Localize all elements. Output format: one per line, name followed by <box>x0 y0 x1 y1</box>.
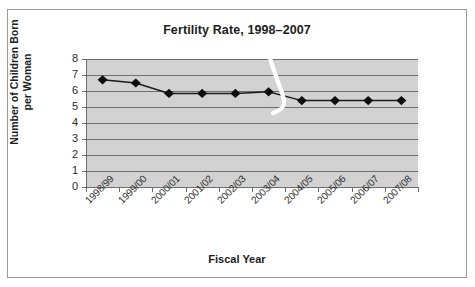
x-tick-mark <box>86 187 87 192</box>
y-axis-title-line-2: per Woman <box>21 54 33 111</box>
y-tick-label: 3 <box>54 132 78 144</box>
y-tick-label: 0 <box>54 180 78 192</box>
x-tick-mark <box>186 187 187 192</box>
x-tick-mark <box>152 187 153 192</box>
chart-page: Fertility Rate, 1998–2007 Number of Chil… <box>0 0 475 287</box>
y-tick-label: 1 <box>54 164 78 176</box>
data-point-marker <box>330 96 340 105</box>
y-tick-label: 4 <box>54 116 78 128</box>
data-point-marker <box>396 96 406 105</box>
data-point-marker <box>230 89 240 98</box>
y-axis-title-line-1: Number of Children Born <box>8 19 20 144</box>
x-tick-mark <box>252 187 253 192</box>
x-tick-mark <box>318 187 319 192</box>
data-point-marker <box>197 89 207 98</box>
x-tick-mark <box>385 187 386 192</box>
y-tick-label: 7 <box>54 68 78 80</box>
data-series-line <box>86 59 418 187</box>
x-tick-mark <box>219 187 220 192</box>
x-tick-mark <box>119 187 120 192</box>
data-point-marker <box>131 78 141 87</box>
chart-frame: Fertility Rate, 1998–2007 Number of Chil… <box>7 9 467 278</box>
data-point-marker <box>264 87 274 96</box>
data-point-marker <box>164 89 174 98</box>
y-tick-label: 6 <box>54 84 78 96</box>
plot-wrapper: 876543210 1998/991999/002000/012001/0220… <box>86 59 418 187</box>
x-tick-mark <box>352 187 353 192</box>
data-point-marker <box>98 75 108 84</box>
series-line <box>103 80 402 101</box>
chart-title: Fertility Rate, 1998–2007 <box>8 23 466 37</box>
x-tick-mark <box>285 187 286 192</box>
y-axis-title: Number of Children Born per Woman <box>8 7 48 157</box>
x-tick-mark <box>418 187 419 192</box>
data-point-marker <box>363 96 373 105</box>
y-tick-label: 8 <box>54 52 78 64</box>
y-tick-label: 2 <box>54 148 78 160</box>
y-tick-label: 5 <box>54 100 78 112</box>
data-point-marker <box>297 96 307 105</box>
x-axis-title: Fiscal Year <box>8 253 466 265</box>
